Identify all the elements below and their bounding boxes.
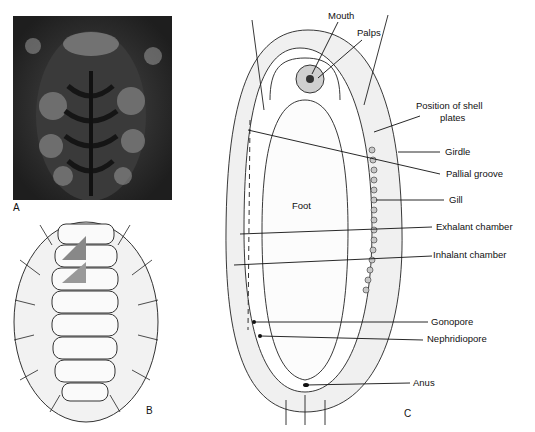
label-gonopore: Gonopore [431, 316, 473, 327]
label-exhalant: Exhalant chamber [436, 221, 513, 232]
label-shell-plates: Position of shell [416, 100, 483, 111]
panel-c-letter: C [404, 408, 411, 419]
label-girdle: Girdle [445, 146, 470, 157]
label-shell-plates-2: plates [440, 112, 465, 123]
label-inhalant: Inhalant chamber [433, 249, 506, 260]
label-pallial-groove: Pallial groove [446, 168, 503, 179]
label-foot: Foot [292, 200, 311, 211]
label-gill: Gill [449, 194, 463, 205]
panel-b-drawing [14, 222, 158, 422]
label-mouth: Mouth [328, 10, 354, 21]
label-nephridiopore: Nephridiopore [427, 333, 487, 344]
panel-b-letter: B [146, 405, 153, 416]
label-anus: Anus [413, 377, 435, 388]
label-palps: Palps [357, 27, 381, 38]
diagram-svg [0, 0, 535, 432]
